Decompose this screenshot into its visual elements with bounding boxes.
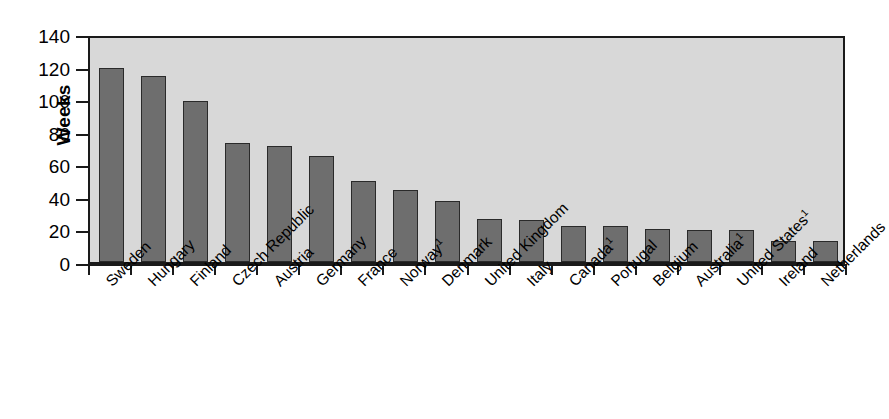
y-tick-label: 100 [26,92,70,111]
bar [561,226,586,262]
y-tick-label: 60 [26,157,70,176]
y-tick-mark [76,166,88,168]
y-tick-label: 20 [26,222,70,241]
y-tick-mark [76,199,88,201]
bars-layer [90,38,843,262]
y-tick-mark [76,231,88,233]
y-tick-mark [76,36,88,38]
bar [99,68,124,262]
y-tick-mark [76,101,88,103]
y-tick-mark [76,134,88,136]
y-tick-label: 120 [26,59,70,78]
plot-area [88,36,845,264]
category-labels: SwedenHungaryFinlandCzech RepublicAustri… [0,264,875,419]
y-tick-label: 140 [26,27,70,46]
y-tick-label: 80 [26,124,70,143]
bar [225,143,250,262]
y-tick-label: 40 [26,189,70,208]
bar [141,76,166,262]
y-tick-mark [76,69,88,71]
